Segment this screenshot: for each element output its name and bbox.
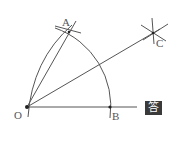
point-c	[152, 32, 155, 35]
label-o: O	[14, 110, 22, 121]
label-c: C	[156, 38, 163, 49]
point-o	[25, 105, 29, 109]
point-b	[108, 105, 111, 108]
point-a	[68, 31, 71, 34]
arc-mark-c-2	[152, 18, 154, 44]
label-a: A	[62, 17, 70, 28]
label-b: B	[112, 111, 119, 122]
ray-oc	[27, 29, 160, 107]
arc-center-o	[55, 28, 111, 118]
answer-badge: 答	[145, 101, 162, 115]
construction-diagram	[0, 0, 190, 148]
